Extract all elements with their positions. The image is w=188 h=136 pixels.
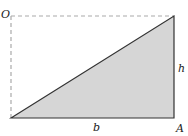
label-o: O: [1, 8, 10, 21]
label-h: h: [178, 62, 185, 75]
label-b: b: [93, 121, 100, 134]
label-a: A: [175, 122, 184, 135]
shaded-triangle: [11, 16, 174, 118]
triangle-diagram: O A h b: [0, 0, 188, 136]
